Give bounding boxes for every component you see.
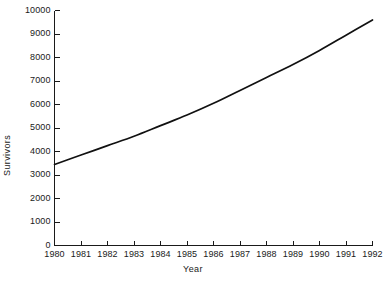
- x-axis-tick-marks: [81, 241, 373, 246]
- chart-figure: 0100020003000400050006000700080009000100…: [0, 0, 386, 283]
- y-tick-label: 8000: [0, 52, 51, 62]
- y-tick-label: 5000: [0, 122, 51, 132]
- y-tick-label: 2000: [0, 193, 51, 203]
- y-tick-label: 6000: [0, 99, 51, 109]
- y-tick-label: 10000: [0, 5, 51, 15]
- y-tick-label: 1000: [0, 216, 51, 226]
- survivors-line-series: [55, 20, 373, 165]
- x-axis-title: Year: [0, 264, 386, 274]
- y-tick-label: 7000: [0, 75, 51, 85]
- y-axis-tick-marks: [55, 11, 60, 246]
- y-axis-title: Survivors: [0, 162, 70, 176]
- x-tick-label: 1992: [357, 249, 386, 259]
- chart-plot-svg: [0, 0, 386, 283]
- y-tick-label: 9000: [0, 28, 51, 38]
